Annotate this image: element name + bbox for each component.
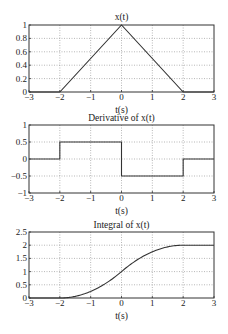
subplot-x-of-t: −3−2−1012300.20.40.60.81x(t)t(s) xyxy=(16,12,217,116)
svg-text:0: 0 xyxy=(119,193,124,203)
svg-text:2.5: 2.5 xyxy=(16,227,28,237)
svg-text:0.8: 0.8 xyxy=(16,33,28,43)
svg-text:−2: −2 xyxy=(55,193,65,203)
svg-text:−0.5: −0.5 xyxy=(11,171,28,181)
data-line xyxy=(29,142,214,176)
x-tick-labels: −3−2−10123 xyxy=(24,298,217,308)
svg-text:0.5: 0.5 xyxy=(16,280,28,290)
grid-lines xyxy=(29,232,214,298)
svg-text:1: 1 xyxy=(150,92,155,102)
svg-text:1: 1 xyxy=(150,298,155,308)
x-tick-labels: −3−2−10123 xyxy=(24,92,217,102)
subplot-title: x(t) xyxy=(115,12,129,23)
x-tick-labels: −3−2−10123 xyxy=(24,193,217,203)
svg-text:1: 1 xyxy=(150,193,155,203)
subplot-title: Integral of x(t) xyxy=(94,220,150,231)
svg-text:2: 2 xyxy=(181,92,186,102)
y-tick-labels: 00.511.522.5 xyxy=(16,227,28,303)
svg-text:0.2: 0.2 xyxy=(16,74,27,84)
svg-text:−2: −2 xyxy=(55,92,65,102)
svg-text:−1: −1 xyxy=(86,92,96,102)
svg-text:−1: −1 xyxy=(86,193,96,203)
svg-text:0.6: 0.6 xyxy=(16,47,28,57)
svg-text:2: 2 xyxy=(181,298,186,308)
svg-text:1: 1 xyxy=(23,267,28,277)
svg-text:−1: −1 xyxy=(17,188,27,198)
svg-text:0.4: 0.4 xyxy=(16,60,28,70)
svg-text:0: 0 xyxy=(119,298,124,308)
subplot-integral: −3−2−1012300.511.522.5Integral of x(t)t(… xyxy=(16,220,217,322)
svg-text:0: 0 xyxy=(23,87,28,97)
subplot-derivative: −3−2−10123−1−0.500.51Derivative of x(t)t… xyxy=(11,113,217,217)
svg-text:0: 0 xyxy=(119,92,124,102)
chart-canvas: −3−2−1012300.20.40.60.81x(t)t(s) −3−2−10… xyxy=(0,0,228,334)
svg-text:−1: −1 xyxy=(86,298,96,308)
x-axis-label: t(s) xyxy=(115,206,128,217)
svg-text:0: 0 xyxy=(23,293,28,303)
svg-text:0: 0 xyxy=(23,154,28,164)
svg-text:1.5: 1.5 xyxy=(16,253,28,263)
svg-text:−2: −2 xyxy=(55,298,65,308)
svg-text:2: 2 xyxy=(181,193,186,203)
svg-text:3: 3 xyxy=(212,298,217,308)
subplot-title: Derivative of x(t) xyxy=(88,113,154,124)
y-tick-labels: 00.20.40.60.81 xyxy=(16,20,28,97)
svg-text:1: 1 xyxy=(23,120,28,130)
svg-text:3: 3 xyxy=(212,193,217,203)
grid-lines xyxy=(29,25,214,92)
y-tick-labels: −1−0.500.51 xyxy=(11,120,28,198)
svg-text:3: 3 xyxy=(212,92,217,102)
figure: −3−2−1012300.20.40.60.81x(t)t(s) −3−2−10… xyxy=(0,0,228,334)
svg-text:0.5: 0.5 xyxy=(16,137,28,147)
svg-text:1: 1 xyxy=(23,20,28,30)
x-axis-label: t(s) xyxy=(115,311,128,322)
svg-text:2: 2 xyxy=(23,240,28,250)
